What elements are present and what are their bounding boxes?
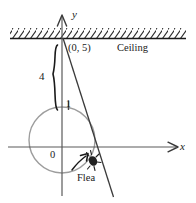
tick-label-1: 1 — [66, 100, 71, 110]
ceiling-label: Ceiling — [117, 43, 148, 54]
origin-label: 0 — [50, 150, 55, 161]
y-axis-label: y — [72, 9, 77, 20]
brace-4 — [53, 45, 58, 110]
ceiling-hatching — [10, 28, 186, 38]
brace-label-4: 4 — [39, 71, 45, 82]
flea-wheel-diagram: y x (0, 5) Ceiling 4 1 0 Flea — [0, 0, 196, 203]
flea-label: Flea — [77, 173, 95, 184]
diagram-canvas — [0, 0, 196, 203]
x-axis-label: x — [180, 141, 185, 152]
point-label-0-5: (0, 5) — [68, 43, 91, 54]
